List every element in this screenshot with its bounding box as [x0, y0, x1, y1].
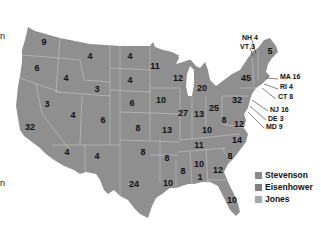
state-label-nc: 14: [232, 136, 242, 145]
state-label-ia: 10: [156, 96, 166, 105]
state-label-or: 6: [34, 64, 39, 73]
state-label-ms: 8: [180, 167, 185, 176]
jones-swatch: [255, 196, 262, 203]
state-label-mt: 4: [87, 52, 92, 61]
state-label-in: 13: [194, 110, 204, 119]
state-label-tn: 11: [194, 141, 204, 150]
callout-md: MD 9: [266, 123, 283, 130]
stevenson-swatch: [255, 172, 262, 179]
state-label-va: 12: [234, 120, 244, 129]
state-label-ky: 10: [202, 126, 212, 135]
state-label-pa: 32: [232, 96, 242, 105]
state-label-ks: 8: [135, 124, 140, 133]
legend-item-eisenhower: Eisenhower: [255, 181, 313, 193]
state-label-sd: 4: [127, 76, 132, 85]
callout-ma: MA 16: [280, 73, 300, 80]
state-label-wa: 9: [41, 38, 46, 47]
state-label-mo: 13: [162, 126, 172, 135]
state-label-co: 6: [100, 116, 105, 125]
state-label-la: 10: [163, 179, 173, 188]
legend: Stevenson Eisenhower Jones: [255, 169, 313, 205]
state-label-al-jones: 1: [197, 173, 202, 182]
state-label-sc: 8: [227, 152, 232, 161]
state-label-az: 4: [64, 148, 69, 157]
state-label-il: 27: [178, 109, 188, 118]
state-label-ga: 12: [213, 166, 223, 175]
state-label-id: 4: [63, 74, 68, 83]
eisenhower-swatch: [255, 184, 262, 191]
legend-label: Jones: [265, 194, 290, 204]
legend-label: Stevenson: [265, 170, 308, 180]
state-label-wi: 12: [173, 74, 183, 83]
state-label-tx: 24: [129, 180, 139, 189]
state-label-al: 10: [194, 160, 204, 169]
callout-vt: VT 3: [240, 43, 255, 50]
edge-text-fragment: n: [0, 32, 5, 41]
legend-label: Eisenhower: [265, 182, 313, 192]
state-label-mi: 20: [197, 84, 207, 93]
state-label-ny: 45: [241, 74, 251, 83]
state-label-ok: 8: [140, 148, 145, 157]
state-label-fl: 10: [227, 196, 237, 205]
callout-nh: NH 4: [242, 34, 258, 41]
legend-item-jones: Jones: [255, 193, 313, 205]
state-label-me: 5: [267, 47, 272, 56]
state-label-mn: 11: [150, 62, 160, 71]
state-label-nv: 3: [44, 100, 49, 109]
callout-ct: CT 8: [278, 93, 293, 100]
callout-ri: RI 4: [280, 83, 293, 90]
state-label-ut: 4: [70, 111, 75, 120]
callout-nj: NJ 16: [270, 106, 289, 113]
state-label-ne: 6: [129, 99, 134, 108]
state-label-wy: 3: [94, 85, 99, 94]
state-label-nm: 4: [94, 152, 99, 161]
state-label-ar: 8: [164, 154, 169, 163]
state-label-nd: 4: [127, 52, 132, 61]
state-label-wv: 8: [221, 116, 226, 125]
state-label-oh: 25: [209, 104, 219, 113]
edge-text-fragment: n: [0, 179, 5, 188]
state-label-ca: 32: [25, 123, 35, 132]
legend-item-stevenson: Stevenson: [255, 169, 313, 181]
callout-de: DE 3: [268, 115, 284, 122]
